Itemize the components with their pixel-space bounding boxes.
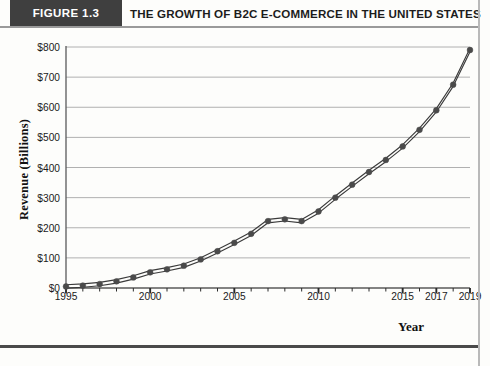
data-point xyxy=(450,82,456,88)
data-point xyxy=(231,240,237,246)
x-tick-label: 2005 xyxy=(223,291,246,302)
line-chart-plot xyxy=(0,30,490,320)
series-line xyxy=(66,48,470,284)
series-line xyxy=(66,52,470,288)
x-tick-label: 1995 xyxy=(55,291,78,302)
y-tick-label: $800 xyxy=(16,42,60,53)
y-tick-label: $700 xyxy=(16,72,60,83)
y-axis-tick-labels: $0$100$200$300$400$500$600$700$800 xyxy=(14,30,60,320)
x-tick-label: 2017 xyxy=(425,291,448,302)
x-axis-title: Year xyxy=(398,319,424,335)
figure-caption xyxy=(4,351,488,365)
data-point xyxy=(282,216,288,222)
y-tick-label: $200 xyxy=(16,222,60,233)
data-point xyxy=(433,107,439,113)
data-point xyxy=(198,256,204,262)
data-point xyxy=(114,278,120,284)
y-tick-label: $0 xyxy=(16,283,60,294)
data-point xyxy=(97,281,103,287)
data-point xyxy=(383,157,389,163)
data-point xyxy=(417,127,423,133)
y-tick-label: $100 xyxy=(16,252,60,263)
figure-title: THE GROWTH OF B2C E-COMMERCE IN THE UNIT… xyxy=(130,0,481,26)
data-point xyxy=(215,248,221,254)
data-point xyxy=(332,195,338,201)
x-tick-label: 2000 xyxy=(139,291,162,302)
footer-divider xyxy=(0,345,478,348)
y-tick-label: $600 xyxy=(16,102,60,113)
x-tick-label: 2010 xyxy=(307,291,330,302)
figure-header: FIGURE 1.3 THE GROWTH OF B2C E-COMMERCE … xyxy=(0,0,478,26)
data-point xyxy=(366,169,372,175)
data-point xyxy=(80,283,86,289)
data-point xyxy=(349,182,355,188)
header-divider xyxy=(0,26,478,28)
data-point xyxy=(181,263,187,269)
x-tick-label: 2015 xyxy=(391,291,414,302)
data-point xyxy=(130,275,136,281)
figure-page: FIGURE 1.3 THE GROWTH OF B2C E-COMMERCE … xyxy=(0,0,490,366)
data-point xyxy=(467,47,473,53)
data-point xyxy=(164,266,170,272)
y-tick-label: $300 xyxy=(16,192,60,203)
figure-number-badge: FIGURE 1.3 xyxy=(10,0,122,26)
chart-container: Revenue (Billions) $0$100$200$300$400$50… xyxy=(0,30,490,320)
data-point xyxy=(265,218,271,224)
data-point xyxy=(316,209,322,215)
data-point xyxy=(400,144,406,150)
y-tick-label: $400 xyxy=(16,162,60,173)
y-tick-label: $500 xyxy=(16,132,60,143)
data-point xyxy=(63,284,69,290)
page-right-border xyxy=(478,0,480,366)
data-point xyxy=(147,269,153,275)
data-point xyxy=(299,218,305,224)
data-point xyxy=(248,231,254,237)
